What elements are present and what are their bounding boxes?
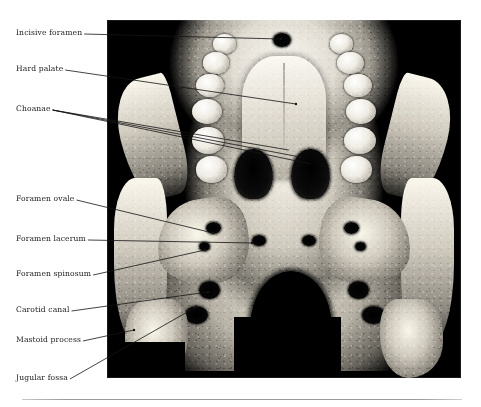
label-choanae: Choanae (16, 105, 51, 113)
ct-image-panel (107, 20, 461, 378)
anatomy-figure: Incisive foramenHard palateChoanaeForame… (0, 0, 481, 407)
label-mastoid-process: Mastoid process (16, 336, 81, 344)
label-foramen-ovale: Foramen ovale (16, 195, 74, 203)
footer-rule (22, 399, 462, 400)
label-hard-palate: Hard palate (16, 65, 63, 73)
label-incisive-foramen: Incisive foramen (16, 29, 82, 37)
label-foramen-spinosum: Foramen spinosum (16, 270, 91, 278)
label-jugular-fossa: Jugular fossa (16, 374, 68, 382)
panel-border (107, 20, 461, 378)
label-foramen-lacerum: Foramen lacerum (16, 235, 86, 243)
label-carotid-canal: Carotid canal (16, 306, 69, 314)
